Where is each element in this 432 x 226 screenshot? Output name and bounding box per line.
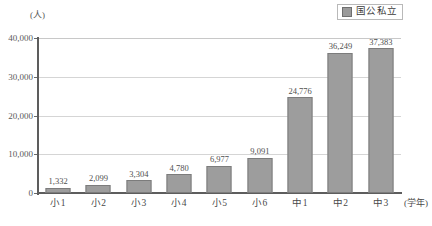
y-tick-label: 10,000	[8, 150, 33, 159]
y-tick-label: 40,000	[8, 34, 33, 43]
x-tick-label: 小4	[171, 199, 187, 209]
x-tick-label: 小3	[131, 199, 147, 209]
y-axis-unit-label: (人)	[30, 11, 45, 20]
bar-slot: 24,776	[280, 38, 320, 193]
bar-value-label: 24,776	[288, 87, 311, 96]
x-tick-label: 中2	[333, 199, 349, 209]
bar[interactable]	[207, 166, 232, 193]
bar-value-label: 1,332	[49, 177, 68, 186]
chart-legend: 国公私立	[337, 4, 403, 20]
bar-slot: 4,780	[159, 38, 199, 193]
bar-value-label: 2,099	[89, 174, 108, 183]
bar-slot: 6,977	[199, 38, 239, 193]
bar-slot: 36,249	[320, 38, 360, 193]
legend-label-kokkoushiritsu: 国公私立	[356, 7, 397, 17]
y-tick-label: 0	[29, 189, 34, 198]
legend-swatch-icon	[342, 7, 352, 17]
bar[interactable]	[368, 48, 393, 193]
bar-slot: 2,099	[78, 38, 118, 193]
bar[interactable]	[46, 188, 71, 193]
bar[interactable]	[288, 97, 313, 193]
x-axis-caption: (学年)	[404, 199, 428, 208]
bar-value-label: 37,383	[369, 38, 392, 47]
x-tick-label: 小1	[50, 199, 66, 209]
bar[interactable]	[167, 174, 192, 193]
bar-value-label: 6,977	[210, 155, 229, 164]
x-tick-label: 小2	[91, 199, 107, 209]
bar-value-label: 9,091	[250, 147, 269, 156]
bar[interactable]	[328, 53, 353, 193]
bars-container: 1,3322,0993,3044,7806,9779,09124,77636,2…	[38, 38, 401, 193]
x-tick-label: 中3	[373, 199, 389, 209]
y-tick-label: 20,000	[8, 111, 33, 120]
bar-slot: 3,304	[119, 38, 159, 193]
bar-slot: 1,332	[38, 38, 78, 193]
bar-slot: 37,383	[361, 38, 401, 193]
bar-value-label: 36,249	[329, 42, 352, 51]
bar[interactable]	[86, 185, 111, 193]
x-tick-label: 中1	[292, 199, 308, 209]
x-tick-label: 小6	[252, 199, 268, 209]
bar[interactable]	[247, 158, 272, 193]
bar-chart: 国公私立 (人) 010,00020,00030,00040,000 1,332…	[0, 0, 432, 226]
bar[interactable]	[126, 180, 151, 193]
bar-slot: 9,091	[240, 38, 280, 193]
x-tick-label: 小5	[212, 199, 228, 209]
bar-value-label: 3,304	[129, 170, 148, 179]
x-axis-labels: 小1小2小3小4小5小6中1中2中3	[38, 199, 401, 215]
y-tick-label: 30,000	[8, 72, 33, 81]
bar-value-label: 4,780	[170, 164, 189, 173]
